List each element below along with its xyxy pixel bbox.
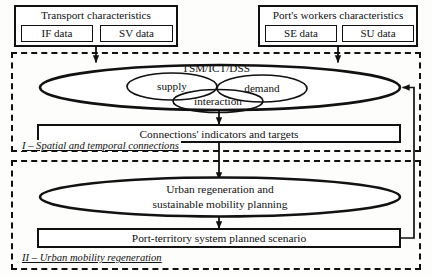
section-label-urban-mobility: II – Urban mobility regeneration — [20, 252, 164, 263]
data-chip-sv[interactable]: SV data — [100, 25, 173, 42]
interaction-ellipse — [173, 90, 263, 113]
section-label-spatial-temporal: I – Spatial and temporal connections — [20, 140, 181, 151]
planned-scenario-box[interactable]: Port-territory system planned scenario — [37, 228, 401, 248]
urban-regeneration-ellipse — [40, 178, 400, 217]
source-box-transport-title: Transport characteristics — [16, 8, 176, 22]
diagram-canvas: Transport characteristics IF data SV dat… — [0, 0, 432, 276]
source-box-transport[interactable]: Transport characteristics IF data SV dat… — [14, 5, 178, 47]
data-chip-se[interactable]: SE data — [265, 25, 337, 42]
data-chip-su[interactable]: SU data — [342, 25, 414, 42]
source-box-port-workers-title: Port's workers characteristics — [260, 8, 416, 22]
data-chip-if[interactable]: IF data — [21, 25, 93, 42]
source-box-port-workers[interactable]: Port's workers characteristics SE data S… — [258, 5, 418, 47]
arrow-feedback-scenario-to-tsm — [401, 88, 414, 239]
